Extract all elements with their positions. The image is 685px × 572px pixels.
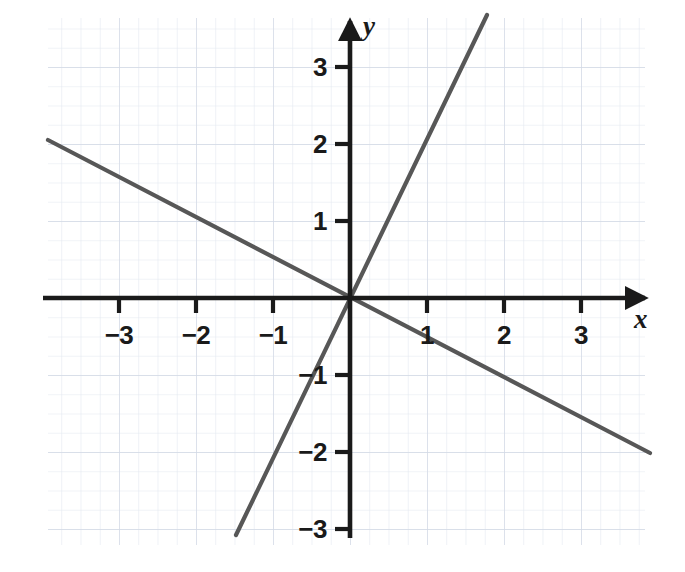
x-tick-label-minus-1: −1 bbox=[259, 322, 288, 348]
x-tick-label-3: 3 bbox=[574, 322, 588, 348]
y-tick-label-1: 1 bbox=[313, 208, 327, 234]
major-gridlines bbox=[48, 18, 645, 545]
graph-canvas bbox=[0, 0, 685, 572]
x-tick-label-2: 2 bbox=[497, 322, 511, 348]
y-tick-label-minus-3: −3 bbox=[298, 516, 327, 542]
grid-layer bbox=[48, 18, 645, 545]
x-tick-label-minus-3: −3 bbox=[105, 322, 134, 348]
y-tick-label-2: 2 bbox=[313, 131, 327, 157]
x-tick-label-1: 1 bbox=[420, 322, 434, 348]
x-axis-label: x bbox=[634, 306, 648, 333]
y-tick-label-3: 3 bbox=[313, 54, 327, 80]
y-axis-label: y bbox=[363, 13, 375, 40]
coordinate-graph-figure: −3 −2 −1 1 2 3 3 2 1 −1 −2 −3 y x bbox=[0, 0, 685, 572]
y-tick-label-minus-1: −1 bbox=[298, 362, 327, 388]
y-tick-label-minus-2: −2 bbox=[298, 439, 327, 465]
x-tick-label-minus-2: −2 bbox=[182, 322, 211, 348]
